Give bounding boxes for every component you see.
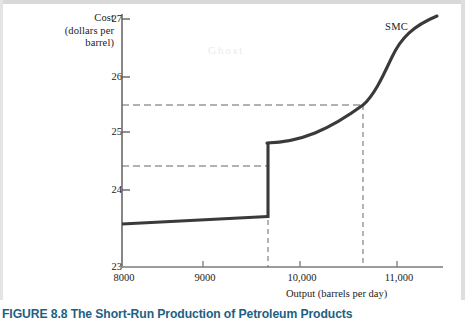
figure-caption: FIGURE 8.8 The Short-Run Production of P… <box>2 307 462 321</box>
smc-curve-segment-1 <box>122 217 268 225</box>
figure-smc-chart: Cost (dollars per barrel) Ghost 27 26 25… <box>0 0 465 323</box>
smc-curve-segment-2 <box>267 16 437 143</box>
plot-canvas <box>0 0 465 300</box>
